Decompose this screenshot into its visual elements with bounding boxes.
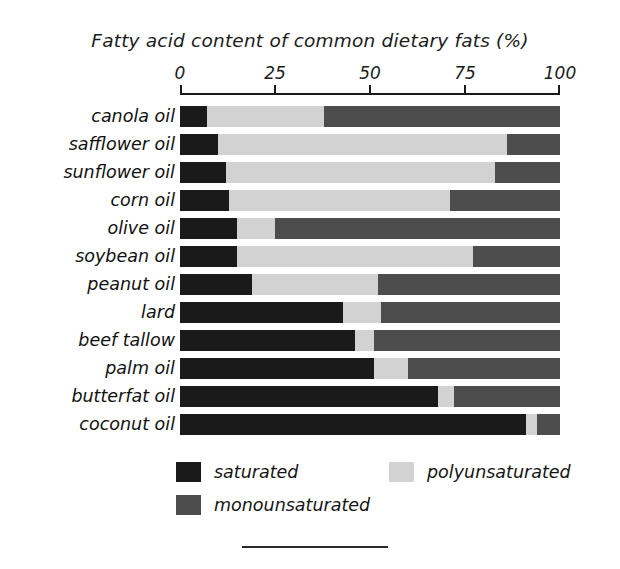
- bar-segment-polyunsaturated[interactable]: [237, 218, 275, 239]
- bar-segment-saturated[interactable]: [180, 358, 374, 379]
- bar-row: beef tallow: [0, 330, 620, 358]
- bar-segment-monounsaturated[interactable]: [450, 190, 560, 211]
- chart-title: Fatty acid content of common dietary fat…: [0, 30, 620, 51]
- bar-track: [180, 134, 560, 155]
- bar-track: [180, 386, 560, 407]
- x-tick-mark: [558, 85, 560, 95]
- bar-track: [180, 330, 560, 351]
- bar-segment-monounsaturated[interactable]: [495, 162, 560, 183]
- legend-swatch-saturated: [176, 462, 201, 482]
- bar-row: canola oil: [0, 106, 620, 134]
- bar-segment-monounsaturated[interactable]: [378, 274, 560, 295]
- bar-track: [180, 274, 560, 295]
- legend-label-monounsaturated: monounsaturated: [214, 495, 370, 515]
- bar-row: palm oil: [0, 358, 620, 386]
- bar-row-label: peanut oil: [87, 274, 175, 295]
- legend-label-polyunsaturated: polyunsaturated: [427, 462, 571, 482]
- bar-segment-monounsaturated[interactable]: [381, 302, 560, 323]
- bar-row-label: soybean oil: [75, 246, 175, 267]
- bar-segment-monounsaturated[interactable]: [507, 134, 560, 155]
- legend-item-monounsaturated[interactable]: monounsaturated: [176, 495, 370, 515]
- bar-segment-polyunsaturated[interactable]: [229, 190, 449, 211]
- bar-track: [180, 246, 560, 267]
- bar-row-label: palm oil: [105, 358, 175, 379]
- bar-row: peanut oil: [0, 274, 620, 302]
- bar-track: [180, 302, 560, 323]
- plot-area: canola oilsafflower oilsunflower oilcorn…: [0, 106, 620, 442]
- bar-row: soybean oil: [0, 246, 620, 274]
- legend-item-saturated[interactable]: saturated: [176, 462, 298, 482]
- bar-row-label: coconut oil: [79, 414, 175, 435]
- bar-segment-polyunsaturated[interactable]: [343, 302, 381, 323]
- bar-track: [180, 218, 560, 239]
- bar-row-label: canola oil: [91, 106, 175, 127]
- bar-track: [180, 162, 560, 183]
- x-axis: 0255075100: [180, 63, 560, 101]
- legend-swatch-monounsaturated: [176, 495, 201, 515]
- bar-row: butterfat oil: [0, 386, 620, 414]
- bar-row: coconut oil: [0, 414, 620, 442]
- bar-segment-saturated[interactable]: [180, 330, 355, 351]
- bar-segment-saturated[interactable]: [180, 190, 229, 211]
- bar-segment-polyunsaturated[interactable]: [207, 106, 325, 127]
- bar-row: lard: [0, 302, 620, 330]
- legend-swatch-polyunsaturated: [389, 462, 414, 482]
- bar-row: sunflower oil: [0, 162, 620, 190]
- bar-segment-saturated[interactable]: [180, 162, 226, 183]
- x-tick-label: 25: [264, 63, 286, 83]
- x-tick-label: 50: [359, 63, 381, 83]
- bar-segment-monounsaturated[interactable]: [374, 330, 560, 351]
- bar-segment-monounsaturated[interactable]: [408, 358, 560, 379]
- chart-legend: saturated polyunsaturated monounsaturate…: [0, 462, 620, 522]
- bar-segment-saturated[interactable]: [180, 106, 207, 127]
- bar-segment-polyunsaturated[interactable]: [374, 358, 408, 379]
- bar-segment-saturated[interactable]: [180, 218, 237, 239]
- x-tick-mark: [274, 85, 276, 95]
- x-tick-label: 75: [454, 63, 476, 83]
- legend-item-polyunsaturated[interactable]: polyunsaturated: [389, 462, 571, 482]
- bar-row-label: safflower oil: [69, 134, 175, 155]
- footer-divider: [242, 546, 388, 548]
- bar-segment-polyunsaturated[interactable]: [526, 414, 537, 435]
- bar-segment-monounsaturated[interactable]: [275, 218, 560, 239]
- bar-segment-polyunsaturated[interactable]: [355, 330, 374, 351]
- x-tick-label: 100: [544, 63, 576, 83]
- x-tick-mark: [464, 85, 466, 95]
- bar-segment-monounsaturated[interactable]: [324, 106, 560, 127]
- x-tick-mark: [180, 85, 182, 95]
- legend-label-saturated: saturated: [214, 462, 298, 482]
- bar-row-label: butterfat oil: [71, 386, 175, 407]
- bar-segment-monounsaturated[interactable]: [473, 246, 560, 267]
- bar-segment-saturated[interactable]: [180, 274, 252, 295]
- bar-row-label: beef tallow: [78, 330, 175, 351]
- bar-row-label: olive oil: [107, 218, 175, 239]
- x-tick-label: 0: [175, 63, 186, 83]
- bar-segment-monounsaturated[interactable]: [454, 386, 560, 407]
- bar-track: [180, 106, 560, 127]
- bar-track: [180, 190, 560, 211]
- bar-segment-polyunsaturated[interactable]: [438, 386, 453, 407]
- bar-segment-saturated[interactable]: [180, 246, 237, 267]
- bar-segment-polyunsaturated[interactable]: [252, 274, 377, 295]
- bar-row: olive oil: [0, 218, 620, 246]
- bar-segment-polyunsaturated[interactable]: [226, 162, 496, 183]
- bar-segment-saturated[interactable]: [180, 414, 526, 435]
- bar-row-label: corn oil: [110, 190, 175, 211]
- bar-segment-saturated[interactable]: [180, 302, 343, 323]
- bar-track: [180, 414, 560, 435]
- bar-row: corn oil: [0, 190, 620, 218]
- bar-segment-polyunsaturated[interactable]: [237, 246, 473, 267]
- bar-segment-saturated[interactable]: [180, 134, 218, 155]
- x-tick-mark: [369, 85, 371, 95]
- bar-segment-saturated[interactable]: [180, 386, 438, 407]
- bar-row-label: sunflower oil: [63, 162, 175, 183]
- bar-segment-polyunsaturated[interactable]: [218, 134, 507, 155]
- bar-track: [180, 358, 560, 379]
- bar-row: safflower oil: [0, 134, 620, 162]
- bar-row-label: lard: [141, 302, 175, 323]
- bar-segment-monounsaturated[interactable]: [537, 414, 560, 435]
